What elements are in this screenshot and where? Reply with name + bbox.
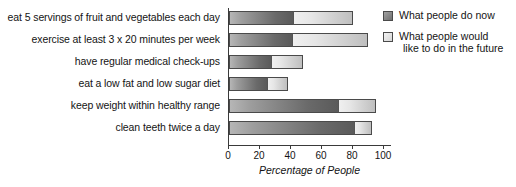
legend-item-now: What people do now [383, 10, 495, 22]
x-axis-line [228, 145, 391, 146]
bar-segment-now [229, 99, 339, 113]
legend-swatch-now-icon [383, 11, 393, 21]
bar-segment-now [229, 77, 268, 91]
bar-segment-now [229, 11, 294, 25]
bar-segment-now [229, 55, 272, 69]
bar-segment-now [229, 33, 293, 47]
x-axis-tick [259, 145, 260, 149]
x-axis: 020406080100 Percentage of People [228, 145, 398, 185]
x-axis-tick [228, 145, 229, 149]
bar-segment-future [267, 77, 288, 91]
legend-label-line2: like to do in the future [399, 43, 503, 55]
bar-segment-future [292, 33, 369, 47]
legend-label: What people do now [399, 10, 495, 22]
x-axis-tick [352, 145, 353, 149]
bar-segment-future [354, 121, 372, 135]
x-axis-tick-label: 60 [315, 150, 326, 161]
x-axis-tick [383, 145, 384, 149]
category-label: exercise at least 3 x 20 minutes per wee… [0, 33, 220, 45]
x-axis-tick [290, 145, 291, 149]
category-label: eat a low fat and low sugar diet [0, 77, 220, 89]
category-label: keep weight within healthy range [0, 99, 220, 111]
bar-chart: eat 5 servings of fruit and vegetables e… [0, 0, 516, 187]
bar-segment-future [293, 11, 353, 25]
legend-label-line1: What people would [399, 30, 488, 42]
legend-label: What people wouldlike to do in the futur… [399, 31, 503, 54]
category-label: have regular medical check-ups [0, 55, 220, 67]
category-axis-labels: eat 5 servings of fruit and vegetables e… [0, 0, 224, 145]
x-axis-tick-label: 100 [375, 150, 392, 161]
bar-segment-future [271, 55, 303, 69]
plot-area [228, 8, 388, 144]
legend-swatch-future-icon [383, 32, 393, 42]
x-axis-tick [321, 145, 322, 149]
x-axis-tick-label: 80 [346, 150, 357, 161]
bar-segment-future [338, 99, 376, 113]
x-axis-tick-label: 20 [253, 150, 264, 161]
legend-item-future: What people wouldlike to do in the futur… [383, 31, 503, 54]
bar-segment-now [229, 121, 355, 135]
x-axis-title: Percentage of People [228, 164, 391, 176]
x-axis-tick-label: 40 [284, 150, 295, 161]
category-label: eat 5 servings of fruit and vegetables e… [0, 11, 220, 23]
category-label: clean teeth twice a day [0, 121, 220, 133]
x-axis-tick-label: 0 [225, 150, 231, 161]
